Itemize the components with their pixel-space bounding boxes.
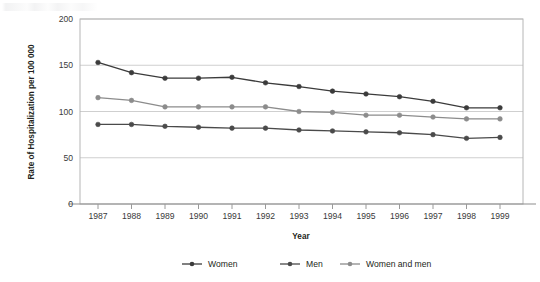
data-point (464, 117, 469, 122)
x-tick-label: 1994 (323, 211, 342, 221)
data-point (464, 106, 469, 111)
legend-item-men[interactable]: Men (280, 259, 323, 269)
y-tick-label: 50 (63, 153, 73, 163)
data-point (129, 98, 134, 103)
x-tick-label: 1992 (256, 211, 275, 221)
series-women (96, 60, 503, 110)
x-axis-title: Year (292, 232, 310, 241)
data-point (464, 136, 469, 141)
legend-label: Women and men (366, 259, 432, 269)
y-axis-ticks: 050100150200 (59, 14, 74, 209)
data-point (431, 99, 436, 104)
data-point (163, 124, 168, 129)
data-point (196, 125, 201, 130)
data-point (498, 117, 503, 122)
data-point (129, 122, 134, 127)
data-point (263, 81, 268, 86)
data-point (498, 106, 503, 111)
line-chart: Rate of Hospitalization per 100 000 0501… (0, 0, 540, 282)
x-tick-label: 1990 (189, 211, 208, 221)
y-tick-label: 200 (59, 14, 74, 24)
data-point (364, 130, 369, 135)
data-point (397, 94, 402, 99)
data-point (297, 128, 302, 133)
x-tick-label: 1989 (155, 211, 174, 221)
x-tick-label: 1997 (423, 211, 442, 221)
data-point (230, 126, 235, 131)
data-point (163, 76, 168, 81)
data-point (230, 75, 235, 80)
data-point (196, 76, 201, 81)
x-tick-label: 1999 (490, 211, 509, 221)
data-point (196, 105, 201, 110)
data-point (230, 105, 235, 110)
y-tick-label: 100 (59, 107, 74, 117)
chart-legend: WomenMenWomen and men (182, 259, 432, 269)
data-point (431, 115, 436, 120)
data-point (364, 113, 369, 118)
chart-figure: Rate of Hospitalization per 100 000 0501… (0, 0, 540, 282)
data-point (163, 105, 168, 110)
x-tick-label: 1995 (356, 211, 375, 221)
data-point (263, 105, 268, 110)
data-point (129, 70, 134, 75)
legend-label: Women (208, 259, 238, 269)
legend-marker (190, 262, 195, 267)
data-point (397, 113, 402, 118)
x-tick-label: 1988 (122, 211, 141, 221)
legend-item-women-and-men[interactable]: Women and men (340, 259, 432, 269)
series-women-and-men (96, 95, 503, 121)
data-point (330, 129, 335, 134)
x-tick-label: 1987 (88, 211, 107, 221)
data-point (96, 122, 101, 127)
legend-marker (348, 262, 353, 267)
x-tick-label: 1996 (390, 211, 409, 221)
x-axis-ticks: 1987198819891990199119921993199419951996… (88, 204, 509, 221)
data-point (297, 109, 302, 114)
series-men (96, 122, 503, 140)
data-point (330, 89, 335, 94)
data-point (330, 110, 335, 115)
x-tick-label: 1993 (289, 211, 308, 221)
data-point (96, 95, 101, 100)
data-point (96, 60, 101, 65)
data-series-layer (96, 60, 503, 140)
data-point (263, 126, 268, 131)
data-point (297, 84, 302, 89)
legend-marker (288, 262, 293, 267)
y-tick-label: 150 (59, 60, 74, 70)
y-axis-title: Rate of Hospitalization per 100 000 (27, 44, 36, 180)
legend-item-women[interactable]: Women (182, 259, 238, 269)
data-point (364, 92, 369, 97)
data-point (431, 132, 436, 137)
x-tick-label: 1991 (222, 211, 241, 221)
legend-label: Men (306, 259, 323, 269)
data-point (498, 135, 503, 140)
x-tick-label: 1998 (457, 211, 476, 221)
y-tick-label: 0 (68, 199, 73, 209)
data-point (397, 130, 402, 135)
